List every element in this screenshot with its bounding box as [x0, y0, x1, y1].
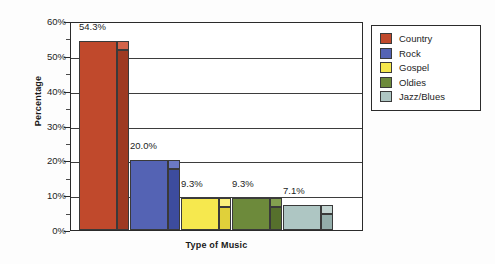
bar-oldies: [232, 198, 270, 230]
legend-label: Gospel: [399, 62, 429, 73]
bar-side-face: [168, 169, 180, 230]
legend-item-oldies[interactable]: Oldies: [380, 77, 474, 88]
bar-top-face: [117, 41, 129, 50]
y-tick-label: 30%: [26, 122, 66, 131]
legend-swatch-icon: [380, 91, 392, 102]
bar-front-face: [79, 41, 117, 230]
bar-country: [79, 41, 117, 230]
legend-swatch-icon: [380, 77, 392, 88]
bar-front-face: [232, 198, 270, 230]
y-tick-label: 50%: [26, 52, 66, 61]
y-tick-label: 20%: [26, 156, 66, 165]
bar-front-face: [283, 205, 321, 230]
legend-swatch-icon: [380, 48, 392, 59]
bar-top-face: [219, 198, 231, 207]
bar-side-face: [117, 50, 129, 230]
legend-label: Rock: [399, 48, 421, 59]
y-tick-label: 0%: [26, 226, 66, 235]
y-tick-label: 10%: [26, 191, 66, 200]
bar-value-label: 7.1%: [283, 185, 305, 196]
bar-jazz-blues: [283, 205, 321, 230]
plot-area: [70, 22, 363, 231]
bar-side-face: [219, 207, 231, 230]
legend-swatch-icon: [380, 33, 392, 44]
x-axis-title: Type of Music: [70, 240, 363, 250]
bar-top-face: [168, 160, 180, 169]
bar-value-label: 20.0%: [130, 140, 157, 151]
bar-value-label: 9.3%: [181, 178, 203, 189]
y-major-tick: [64, 231, 70, 232]
y-tick-label: 60%: [26, 17, 66, 26]
bar-value-label: 9.3%: [232, 178, 254, 189]
bar-value-label: 54.3%: [79, 21, 106, 32]
legend-swatch-icon: [380, 62, 392, 73]
legend: CountryRockGospelOldiesJazz/Blues: [371, 25, 481, 111]
bar-top-face: [270, 198, 282, 207]
bar-side-face: [321, 214, 333, 230]
bar-top-face: [321, 205, 333, 214]
legend-item-rock[interactable]: Rock: [380, 48, 474, 59]
bar-gospel: [181, 198, 219, 230]
bar-front-face: [181, 198, 219, 230]
bar-side-face: [270, 207, 282, 230]
legend-item-jazz-blues[interactable]: Jazz/Blues: [380, 91, 474, 102]
y-tick-label: 40%: [26, 87, 66, 96]
bar-rock: [130, 160, 168, 230]
bar-front-face: [130, 160, 168, 230]
legend-label: Oldies: [399, 77, 426, 88]
legend-item-gospel[interactable]: Gospel: [380, 62, 474, 73]
legend-item-country[interactable]: Country: [380, 33, 474, 44]
legend-label: Jazz/Blues: [399, 91, 445, 102]
bar-chart: Percentage 60%50%40%30%20%10%0% 54.3%20.…: [0, 0, 495, 264]
y-axis-tick-labels: 60%50%40%30%20%10%0%: [22, 0, 66, 264]
legend-label: Country: [399, 33, 432, 44]
